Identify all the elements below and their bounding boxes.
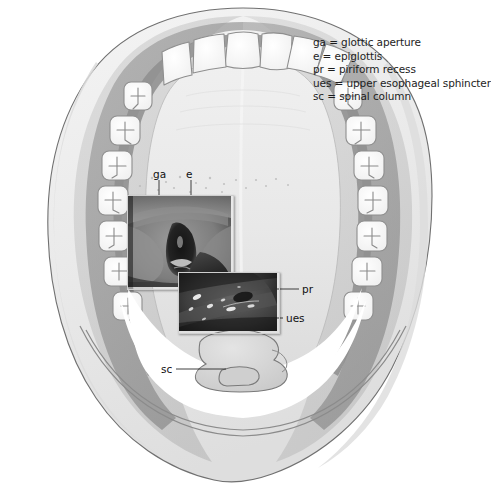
tooth-incisor-central-right [260,33,292,70]
legend-item-pr: pr = piriform recess [313,63,491,77]
tooth-incisor-central-left [225,32,261,69]
tooth-incisor-lateral-left [193,34,226,73]
callout-label-sc: sc [161,363,172,375]
legend: ga = glottic aperture e = epiglottis pr … [313,36,491,104]
inset-hypopharynx-endoscopy [178,272,280,334]
legend-item-ues: ues = upper esophageal sphincter [313,77,491,91]
callout-label-pr: pr [302,283,313,295]
legend-item-ga: ga = glottic aperture [313,36,491,50]
callout-label-ues: ues [286,312,305,324]
callout-label-e: e [186,168,192,180]
legend-item-sc: sc = spinal column [313,90,491,104]
legend-item-e: e = epiglottis [313,50,491,64]
callout-label-ga: ga [153,168,166,180]
